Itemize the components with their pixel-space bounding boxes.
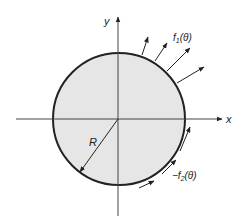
normal-arrow xyxy=(155,43,167,61)
normal-arrow xyxy=(177,67,204,83)
f2-label: −f2(θ) xyxy=(172,170,197,182)
diagram-canvas: x y R f1(θ) −f2(θ) xyxy=(0,0,242,223)
y-axis-label: y xyxy=(103,15,111,27)
normal-arrow xyxy=(167,48,190,71)
f1-label: f1(θ) xyxy=(173,32,192,44)
normal-arrow xyxy=(142,37,148,55)
x-axis-label: x xyxy=(225,113,232,125)
radius-label: R xyxy=(89,136,97,148)
